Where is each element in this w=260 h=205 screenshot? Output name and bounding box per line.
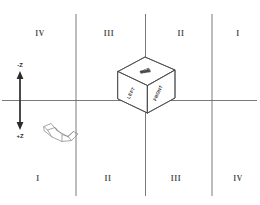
quadrant-label-top-2: III [104, 29, 115, 38]
z-axis-label-negative: -Z [17, 62, 23, 68]
quadrant-label-bottom-2: II [104, 174, 111, 183]
isometric-cube [118, 57, 175, 113]
object-edge-e [68, 132, 74, 137]
object-edge-f [68, 137, 72, 141]
z-axis-arrowhead-up [17, 71, 24, 79]
l-shaped-wireframe-object [44, 124, 78, 142]
quadrant-label-bottom-3: III [171, 174, 182, 183]
quadrant-label-bottom-1: I [36, 174, 40, 183]
diagram-canvas: IV III II I I II III IV -Z +Z TOP LEFT F… [0, 0, 260, 205]
quadrant-label-top-1: IV [35, 29, 45, 38]
z-axis-arrowhead-down [17, 122, 24, 130]
quadrant-label-top-4: I [236, 29, 240, 38]
z-axis-label-positive: +Z [16, 133, 23, 139]
quadrant-label-bottom-4: IV [233, 174, 243, 183]
quadrant-label-top-3: II [177, 29, 184, 38]
